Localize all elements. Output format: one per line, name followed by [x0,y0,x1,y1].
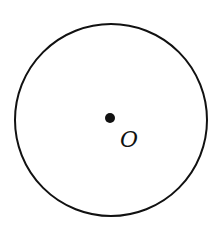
circle-diagram: O [0,0,219,227]
center-label: O [120,127,138,152]
center-point [105,113,115,123]
